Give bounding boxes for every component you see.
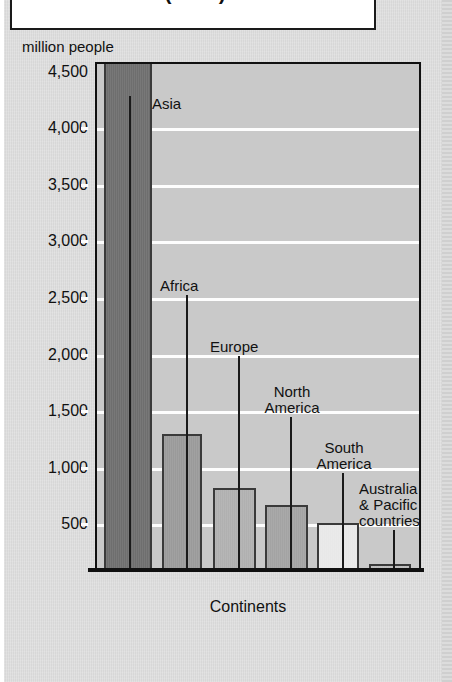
bar-asia <box>104 62 152 572</box>
bar-label-africa: Africa <box>160 278 198 294</box>
bar-label-australia-line1: Australia <box>359 480 417 497</box>
page-left-margin <box>0 0 4 682</box>
y-axis-tick-labels: 4,500 4,000 3,500 3,000 2,500 2,000 1,50… <box>0 0 88 682</box>
page-right-margin <box>442 0 452 682</box>
x-axis-label-text: Continents <box>210 598 287 615</box>
y-tickmark-1500 <box>81 410 88 413</box>
bar-label-south-america-line2: America <box>316 455 371 472</box>
scanned-page: CONTINENTS (2016) million people 4,500 4… <box>0 0 452 682</box>
bar-label-australia-line2: & Pacific <box>359 496 417 513</box>
y-tick-1000: 1,000 <box>4 459 88 477</box>
bar-label-south-america-line1: South <box>324 439 363 456</box>
y-tick-2000: 2,000 <box>4 346 88 364</box>
page-title: CONTINENTS (2016) <box>21 0 226 4</box>
y-tick-3500: 3,500 <box>4 176 88 194</box>
y-tickmark-1000 <box>81 467 88 470</box>
bar-label-australia-line3: countries <box>359 512 420 529</box>
y-tickmark-3000 <box>81 240 88 243</box>
y-tickmark-2500 <box>81 297 88 300</box>
leader-line-south-america <box>342 473 344 572</box>
bar-label-south-america: SouthAmerica <box>316 440 371 472</box>
x-axis-label: Continents <box>0 598 452 616</box>
bar-europe <box>213 488 256 572</box>
y-tickmark-2000 <box>81 354 88 357</box>
bar-south-america <box>317 523 359 572</box>
y-tickmark-4000 <box>81 127 88 130</box>
bar-label-australia-pacific: Australia& Pacificcountries <box>359 481 420 529</box>
y-tick-3000: 3,000 <box>4 232 88 250</box>
y-tickmark-500 <box>81 523 88 526</box>
leader-line-north-america <box>290 417 292 572</box>
y-tickmark-3500 <box>81 184 88 187</box>
bar-label-asia: Asia <box>152 96 181 112</box>
leader-line-europe <box>238 356 240 572</box>
bar-africa <box>162 434 202 572</box>
bar-label-europe: Europe <box>210 339 258 355</box>
bar-label-north-america-line1: North <box>274 383 311 400</box>
leader-line-australia-pacific <box>393 530 395 572</box>
y-tick-500: 500 <box>4 515 88 533</box>
y-tick-4500: 4,500 <box>4 63 88 81</box>
y-tick-1500: 1,500 <box>4 402 88 420</box>
y-tick-4000: 4,000 <box>4 119 88 137</box>
leader-line-asia <box>129 96 131 572</box>
x-axis-line <box>88 568 424 572</box>
y-tick-2500: 2,500 <box>4 289 88 307</box>
chart-title-band: CONTINENTS (2016) <box>10 0 376 30</box>
leader-line-africa <box>186 295 188 572</box>
bar-north-america <box>265 505 308 572</box>
bar-label-north-america: NorthAmerica <box>264 384 319 416</box>
bar-label-north-america-line2: America <box>264 399 319 416</box>
